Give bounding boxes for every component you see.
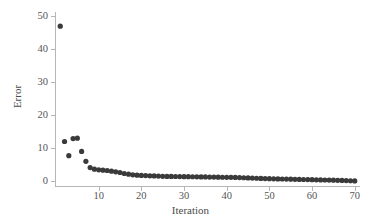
y-axis-tick: [51, 148, 55, 149]
data-point: [352, 178, 357, 183]
x-axis-tick-label: 20: [121, 191, 161, 202]
y-axis-tick: [51, 115, 55, 116]
x-axis-tick-label: 40: [207, 191, 247, 202]
y-axis-tick-label: 0: [8, 176, 48, 187]
data-point: [66, 153, 71, 158]
series-error: [58, 24, 358, 184]
data-point: [58, 24, 63, 29]
scatter-points-canvas: [56, 13, 359, 186]
y-axis-tick-label: 40: [8, 44, 48, 55]
data-point: [62, 139, 67, 144]
x-axis-spine: [55, 186, 360, 187]
y-axis-tick-label: 50: [8, 11, 48, 22]
data-point: [79, 149, 84, 154]
y-axis-tick: [51, 82, 55, 83]
y-axis-title: Error: [12, 67, 23, 127]
x-axis-tick-label: 60: [292, 191, 332, 202]
x-axis-title: Iteration: [0, 205, 381, 216]
plot-area: [56, 13, 359, 186]
x-axis-tick-label: 70: [335, 191, 375, 202]
data-point: [83, 159, 88, 164]
y-axis-tick: [51, 16, 55, 17]
chart-figure: 0102030405010203040506070 Iteration Erro…: [0, 0, 381, 224]
x-axis-tick-label: 50: [249, 191, 289, 202]
y-axis-tick: [51, 49, 55, 50]
x-axis-tick-label: 30: [164, 191, 204, 202]
data-point: [75, 136, 80, 141]
x-axis-tick-label: 10: [79, 191, 119, 202]
y-axis-tick: [51, 181, 55, 182]
y-axis-tick-label: 10: [8, 143, 48, 154]
